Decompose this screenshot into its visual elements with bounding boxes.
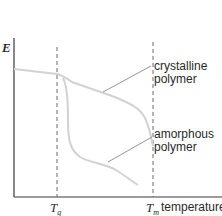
crystalline-label: crystalline polymer bbox=[154, 60, 207, 86]
modulus-temperature-diagram bbox=[0, 0, 222, 216]
amorphous-label: amorphous polymer bbox=[154, 128, 214, 154]
y-axis-label: E bbox=[2, 40, 11, 56]
tm-subscript: m bbox=[153, 208, 159, 216]
amorphous-leader-line bbox=[108, 137, 152, 162]
crystalline-curve bbox=[14, 69, 153, 146]
amorphous-curve bbox=[63, 78, 138, 185]
amorphous-label-line2: polymer bbox=[154, 141, 214, 154]
x-axis-label: temperature bbox=[161, 200, 222, 214]
crystalline-leader-line bbox=[103, 66, 151, 92]
tg-subscript: g bbox=[57, 208, 61, 216]
tm-label: Tm bbox=[146, 200, 159, 216]
crystalline-label-line2: polymer bbox=[154, 73, 207, 86]
tg-label: Tg bbox=[50, 200, 61, 216]
